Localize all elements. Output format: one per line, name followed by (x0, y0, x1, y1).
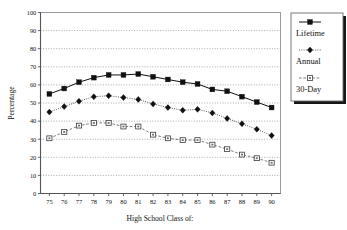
data-point-marker (240, 94, 245, 99)
y-tick-label: 80 (30, 45, 36, 52)
y-tick-label: 90 (30, 27, 36, 34)
data-point-marker-center (197, 139, 199, 141)
data-point-marker-center (137, 126, 139, 128)
data-point-marker (210, 87, 215, 92)
chart-legend: LifetimeAnnual30-Day (291, 13, 346, 104)
legend-item-lifetime[interactable]: Lifetime (296, 20, 325, 38)
x-tick-label: 77 (76, 198, 83, 205)
data-point-marker (91, 94, 96, 100)
x-tick-label: 83 (165, 198, 171, 205)
data-point-marker (224, 115, 229, 121)
legend-item-annual[interactable]: Annual (296, 47, 321, 66)
y-tick-label: 10 (30, 172, 36, 179)
data-point-marker-center (108, 122, 110, 124)
data-point-marker (91, 75, 96, 80)
x-tick-label: 79 (105, 198, 111, 205)
series-annual (47, 93, 275, 139)
data-point-marker (77, 80, 82, 85)
data-point-marker (254, 126, 259, 132)
x-tick-label: 84 (180, 198, 187, 205)
data-point-marker (195, 106, 200, 112)
series-path (49, 74, 271, 107)
legend-item-30-day[interactable]: 30-Day (296, 76, 322, 94)
data-point-marker-center (256, 157, 258, 159)
legend-item-label: 30-Day (296, 85, 322, 94)
legend-item-label: Lifetime (296, 29, 325, 38)
data-point-marker-center (122, 126, 124, 128)
data-point-marker (195, 82, 200, 87)
data-point-marker (47, 92, 52, 97)
data-point-marker (136, 72, 141, 77)
data-point-marker (136, 96, 141, 102)
data-point-marker-center (182, 139, 184, 141)
data-point-marker (106, 73, 111, 78)
legend-item-label: Annual (296, 57, 321, 66)
y-tick-label: 20 (30, 154, 36, 161)
line-chart: 0102030405060708090100 Percentage 757677… (0, 0, 347, 230)
data-point-marker (106, 93, 111, 99)
data-point-marker-center (211, 144, 213, 146)
data-point-marker (151, 74, 156, 79)
x-tick-label: 81 (135, 198, 141, 205)
y-axis: 0102030405060708090100 Percentage (7, 9, 41, 197)
data-point-marker-center (271, 162, 273, 164)
data-point-marker-center (48, 137, 50, 139)
data-point-marker (239, 121, 244, 127)
y-tick-label: 70 (30, 63, 36, 70)
data-point-marker-center (152, 134, 154, 136)
x-tick-label: 76 (61, 198, 67, 205)
y-tick-label: 40 (30, 117, 36, 124)
data-point-marker (269, 133, 274, 139)
data-point-marker-center (63, 131, 65, 133)
x-tick-label: 80 (120, 198, 126, 205)
x-tick-label: 86 (209, 198, 215, 205)
data-point-marker (180, 80, 185, 85)
data-point-marker (166, 77, 171, 82)
x-tick-label: 88 (239, 198, 245, 205)
x-axis-title: High School Class of: (127, 214, 194, 223)
data-point-marker (76, 98, 81, 104)
series-30-day (47, 121, 274, 166)
legend-sample-marker (308, 20, 313, 25)
x-axis: 75767778798081828384858687888990 High Sc… (41, 194, 281, 224)
chart-container: 0102030405060708090100 Percentage 757677… (0, 0, 347, 230)
series-lifetime (47, 72, 274, 110)
data-point-marker (225, 89, 230, 94)
data-point-marker (62, 104, 67, 110)
y-axis-title: Percentage (7, 86, 16, 120)
data-point-marker-center (226, 148, 228, 150)
data-point-marker-center (78, 125, 80, 127)
data-point-marker (62, 86, 67, 91)
x-tick-label: 82 (150, 198, 156, 205)
legend-sample-marker-center (309, 77, 311, 79)
data-point-marker-center (241, 154, 243, 156)
data-point-marker (150, 101, 155, 107)
data-point-marker-center (167, 137, 169, 139)
x-tick-label: 75 (46, 198, 52, 205)
x-tick-label: 85 (194, 198, 200, 205)
series-path (49, 96, 271, 136)
y-tick-label: 30 (30, 136, 36, 143)
data-point-marker-center (93, 122, 95, 124)
data-point-marker (165, 105, 170, 111)
data-point-marker (254, 100, 259, 105)
data-series-layer (47, 72, 275, 165)
data-point-marker (121, 73, 126, 78)
y-tick-label: 60 (30, 81, 36, 88)
x-tick-label: 90 (268, 198, 274, 205)
y-tick-label: 50 (30, 99, 36, 106)
data-point-marker (47, 109, 52, 115)
x-tick-label: 78 (91, 198, 97, 205)
series-path (49, 123, 271, 163)
data-point-marker (269, 105, 274, 110)
y-tick-label: 100 (27, 9, 37, 16)
y-tick-label: 0 (33, 190, 36, 197)
data-point-marker (180, 107, 185, 113)
data-point-marker (210, 110, 215, 116)
x-tick-label: 89 (254, 198, 260, 205)
x-tick-label: 87 (224, 198, 231, 205)
data-point-marker (121, 95, 126, 101)
